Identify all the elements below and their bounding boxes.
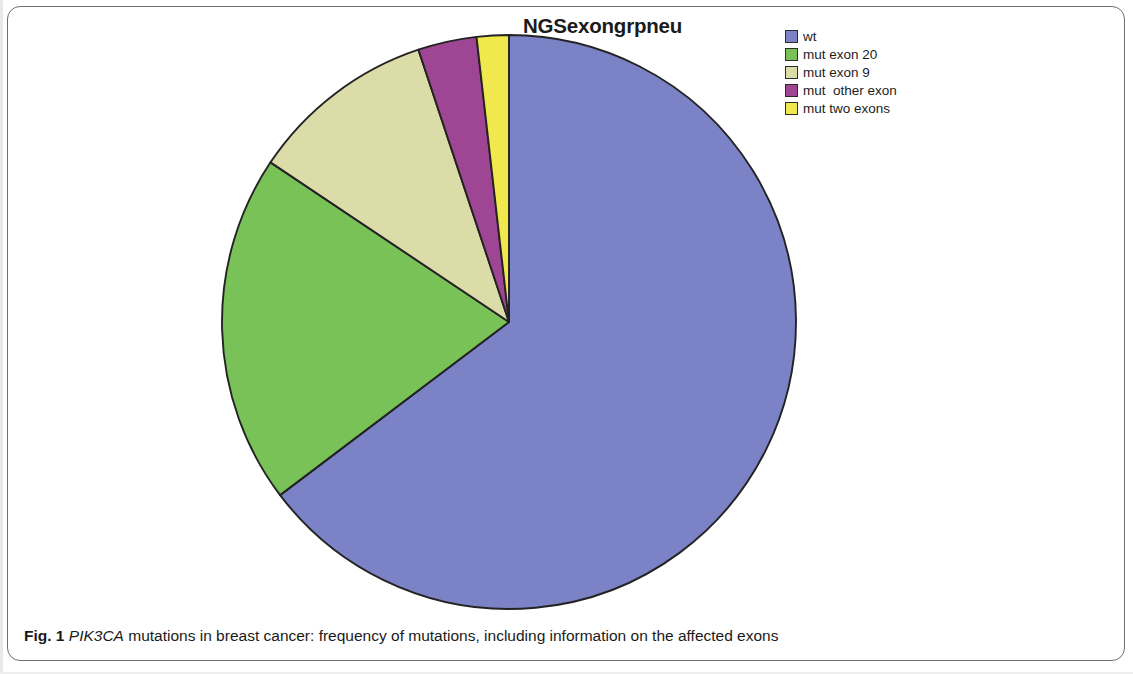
pie-slice-group: wt 64.7%mut exon 20 19.7%mut exon 9 10.5… xyxy=(222,35,796,609)
legend-item-label: mut exon 9 xyxy=(803,65,870,80)
caption-text: mutations in breast cancer: frequency of… xyxy=(124,627,779,644)
figure-caption: Fig. 1 PIK3CA mutations in breast cancer… xyxy=(24,626,1104,646)
legend-color-swatch-icon xyxy=(785,30,798,43)
pie-chart-svg: wt 64.7%mut exon 20 19.7%mut exon 9 10.5… xyxy=(219,32,799,612)
legend-item-label: mut other exon xyxy=(803,83,897,98)
legend-item[interactable]: wt xyxy=(785,28,985,45)
chart-legend: wtmut exon 20mut exon 9mut other exonmut… xyxy=(785,28,985,118)
legend-color-swatch-icon xyxy=(785,48,798,61)
pie-chart-area: NGSexongrpneu wt 64.7%mut exon 20 19.7%m… xyxy=(0,0,1133,610)
legend-item-label: mut two exons xyxy=(803,101,890,116)
legend-item[interactable]: mut other exon xyxy=(785,82,985,99)
legend-item-label: mut exon 20 xyxy=(803,47,877,62)
legend-item[interactable]: mut exon 20 xyxy=(785,46,985,63)
legend-item-label: wt xyxy=(803,29,817,44)
figure-root: NGSexongrpneu wt 64.7%mut exon 20 19.7%m… xyxy=(0,0,1133,674)
pie-chart: wt 64.7%mut exon 20 19.7%mut exon 9 10.5… xyxy=(219,32,799,612)
figure-frame-bottom-shade xyxy=(8,663,1125,672)
legend-color-swatch-icon xyxy=(785,102,798,115)
legend-item[interactable]: mut two exons xyxy=(785,100,985,117)
legend-color-swatch-icon xyxy=(785,66,798,79)
caption-figure-number: Fig. 1 xyxy=(24,627,64,644)
legend-item[interactable]: mut exon 9 xyxy=(785,64,985,81)
legend-color-swatch-icon xyxy=(785,84,798,97)
caption-gene-name: PIK3CA xyxy=(69,627,124,644)
